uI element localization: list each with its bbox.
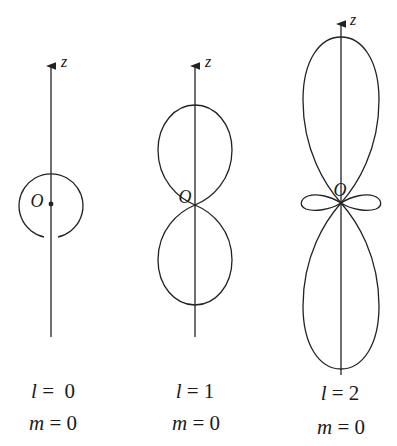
origin-label-3: O <box>334 180 347 201</box>
m-label-3: m = 0 <box>317 415 365 440</box>
origin-label-2: O <box>179 187 192 208</box>
axis-label-z-2: z <box>205 53 211 71</box>
l-label-2: l = 1 <box>176 379 215 404</box>
panel-l1 <box>158 66 232 337</box>
axis-label-z-1: z <box>61 53 67 71</box>
m-label-2: m = 0 <box>172 411 220 436</box>
origin-dot-1 <box>49 202 53 206</box>
panel-l0 <box>19 66 83 337</box>
m-label-1: m = 0 <box>29 411 77 436</box>
origin-label-1: O <box>31 191 44 212</box>
l-label-1: l = 0 <box>31 379 75 404</box>
l-label-3: l = 2 <box>321 381 360 406</box>
axis-label-z-3: z <box>350 11 356 29</box>
right-torus-lobe <box>341 195 381 211</box>
